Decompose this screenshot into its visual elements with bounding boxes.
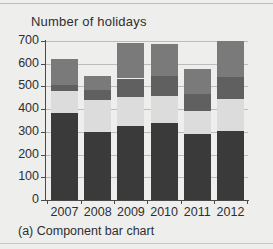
y-axis-tick-label: 700: [1, 33, 39, 47]
bar-segment-2007-s1[interactable]: [51, 113, 78, 200]
bar-segment-2011-s3[interactable]: [184, 94, 211, 112]
x-axis-tick-label-2007: 2007: [49, 205, 81, 219]
y-axis-tick-label: 500: [1, 78, 39, 92]
figure-caption: (a) Component bar chart: [18, 224, 154, 238]
bar-segment-2012-s1[interactable]: [217, 131, 244, 200]
bar-segment-2010-s1[interactable]: [151, 123, 178, 200]
bar-2008[interactable]: [84, 41, 111, 200]
x-axis-tick: [47, 200, 48, 204]
x-axis-tick: [214, 200, 215, 204]
bar-segment-2010-s4[interactable]: [151, 44, 178, 76]
y-axis-tick-label: 400: [1, 101, 39, 115]
bar-segment-2007-s2[interactable]: [51, 91, 78, 113]
bar-2007[interactable]: [51, 41, 78, 200]
bar-segment-2009-s3[interactable]: [117, 79, 144, 97]
bar-segment-2011-s4[interactable]: [184, 69, 211, 94]
bar-segment-2007-s3[interactable]: [51, 85, 78, 91]
y-axis-tick: [41, 132, 46, 133]
bar-segment-2012-s3[interactable]: [217, 77, 244, 99]
plot-area: [46, 41, 248, 200]
y-axis-tick-label: 600: [1, 56, 39, 70]
y-axis-tick: [41, 155, 46, 156]
bar-segment-2007-s4[interactable]: [51, 59, 78, 84]
x-axis-tick-label-2012: 2012: [215, 205, 247, 219]
bar-segment-2008-s2[interactable]: [84, 100, 111, 132]
bar-2011[interactable]: [184, 41, 211, 200]
component-bar-chart-figure: Number of holidays 700600500400300200100…: [0, 0, 273, 249]
bar-segment-2010-s2[interactable]: [151, 96, 178, 123]
y-axis-tick: [41, 177, 46, 178]
bar-segment-2008-s1[interactable]: [84, 132, 111, 200]
bar-segment-2011-s1[interactable]: [184, 134, 211, 200]
bar-segment-2009-s4[interactable]: [117, 43, 144, 78]
y-axis-tick-labels: 7006005004003002001000: [0, 0, 39, 249]
y-axis-tick: [41, 41, 46, 42]
y-axis-tick-label: 200: [1, 147, 39, 161]
bar-segment-2009-s1[interactable]: [117, 126, 144, 201]
y-axis-tick-label: 300: [1, 124, 39, 138]
bar-segment-2010-s3[interactable]: [151, 76, 178, 95]
x-axis-tick: [147, 200, 148, 204]
bar-2010[interactable]: [151, 41, 178, 200]
bar-segment-2009-s2[interactable]: [117, 97, 144, 126]
y-axis-tick: [41, 64, 46, 65]
x-axis-tick-label-2010: 2010: [148, 205, 180, 219]
x-axis-tick: [247, 200, 248, 204]
bar-segment-2008-s3[interactable]: [84, 90, 111, 100]
bar-segment-2011-s2[interactable]: [184, 111, 211, 133]
x-axis-tick-label-2011: 2011: [181, 205, 213, 219]
y-axis-tick-label: 0: [1, 192, 39, 206]
x-axis-tick-label-2008: 2008: [82, 205, 114, 219]
chart-title: Number of holidays: [31, 14, 147, 29]
bar-2009[interactable]: [117, 41, 144, 200]
bar-segment-2012-s2[interactable]: [217, 99, 244, 131]
bar-segment-2008-s4[interactable]: [84, 76, 111, 90]
x-axis-tick-label-2009: 2009: [115, 205, 147, 219]
x-axis-tick: [181, 200, 182, 204]
y-axis-tick-label: 100: [1, 169, 39, 183]
y-axis-tick: [41, 109, 46, 110]
x-axis-tick: [114, 200, 115, 204]
y-axis-tick: [41, 200, 46, 201]
y-axis-tick: [41, 86, 46, 87]
bar-2012[interactable]: [217, 41, 244, 200]
bar-segment-2012-s4[interactable]: [217, 41, 244, 77]
x-axis-tick: [81, 200, 82, 204]
